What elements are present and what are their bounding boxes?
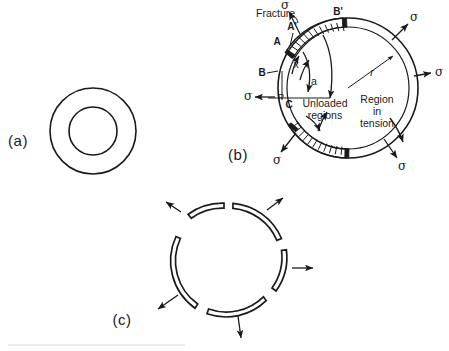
fragment-right	[272, 250, 287, 291]
sigma-label-right: σ	[435, 65, 443, 79]
unloading-arrow-mid-inner	[303, 52, 310, 92]
point-label-A: A	[273, 36, 280, 47]
figure-root: (a)	[0, 0, 449, 351]
fragment-top-right-arrow	[267, 198, 283, 210]
panel-b-group: Fracture A' A B B' C P x a r Unloaded r	[228, 0, 443, 173]
region-tension-label-line3: tension	[360, 117, 394, 129]
panel-a-group: (a)	[8, 88, 136, 174]
region-tension-label-line1: Region	[360, 93, 393, 105]
panel-c-group: (c)	[113, 198, 314, 338]
radius-label: r	[370, 66, 374, 78]
point-label-P: P	[278, 91, 284, 102]
fracture-band-lower	[288, 121, 349, 158]
point-label-A-prime: A'	[287, 21, 297, 32]
stress-arrow-left: σ	[244, 89, 275, 103]
region-tension-label-line2: in	[373, 105, 381, 117]
unloaded-regions-label-line1: Unloaded	[303, 97, 348, 109]
fracture-band-upper-inner-edge	[294, 27, 344, 56]
crack-length-a-label: a	[311, 75, 317, 87]
fragment-bottom-arrow	[238, 316, 241, 338]
stress-arrow-bottom-right: σ	[384, 139, 406, 173]
panel-a-label: (a)	[8, 132, 28, 149]
distance-x-label: x	[293, 58, 299, 70]
unloading-arrow-x-up2	[300, 60, 309, 80]
panel-b-label: (b)	[228, 146, 248, 163]
sigma-label-top-left: σ	[281, 0, 289, 12]
panel-c-label: (c)	[113, 311, 132, 328]
stress-arrow-right: σ	[414, 65, 443, 79]
panel-a-outer-circle	[50, 88, 136, 174]
figure-canvas: (a)	[0, 0, 449, 351]
fragment-top-right	[233, 203, 282, 240]
sigma-label-top-right: σ	[410, 10, 418, 24]
stress-arrow-bottom-left: σ	[273, 133, 296, 167]
sigma-label-bottom-right: σ	[398, 159, 406, 173]
leader-B	[267, 71, 278, 73]
unloaded-regions-label-line2: regions	[308, 109, 342, 121]
sigma-label-bottom-left: σ	[273, 153, 281, 167]
fragment-top-left	[188, 203, 224, 218]
fragment-left-arrow	[158, 295, 178, 309]
point-label-B: B	[258, 67, 265, 78]
fracture-cap-lower-right	[345, 149, 349, 158]
panel-a-inner-circle	[69, 107, 117, 155]
fracture-band-lower-inner-edge	[297, 121, 347, 149]
stress-arrow-top-right: σ	[392, 10, 418, 40]
sigma-label-left: σ	[244, 89, 252, 103]
unloading-arrow-right-inner	[323, 35, 332, 98]
fragment-top-left-arrow	[166, 202, 181, 212]
point-label-B-prime: B'	[333, 6, 343, 17]
point-label-C: C	[285, 99, 292, 110]
fragment-bottom	[207, 297, 266, 317]
fracture-cap-upper-right	[342, 18, 347, 27]
